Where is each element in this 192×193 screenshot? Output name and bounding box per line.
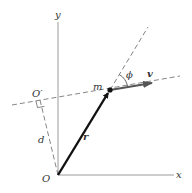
foot-label: O′ (32, 88, 43, 99)
angular-momentum-diagram: y x O m O′ r v d ϕ (0, 0, 192, 193)
y-axis-label: y (54, 9, 61, 20)
origin-label: O (42, 173, 50, 184)
vector-v (110, 83, 152, 90)
particle-m-dot (107, 87, 112, 92)
distance-label: d (38, 134, 44, 145)
r-extension-dashed (110, 27, 148, 90)
angle-label: ϕ (126, 69, 133, 80)
x-axis-label: x (176, 169, 182, 180)
velocity-vector-label: v (147, 68, 153, 79)
position-vector-label: r (83, 131, 89, 142)
particle-label: m (93, 81, 102, 92)
